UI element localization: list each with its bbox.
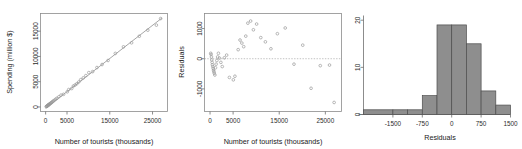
- data-point: [284, 27, 287, 30]
- y-axis-ticks: -100001000: [196, 21, 205, 97]
- y-axis-label: Residuals: [177, 46, 186, 78]
- data-point: [276, 32, 279, 35]
- x-axis-label: Number of tourists (thousands): [224, 137, 323, 146]
- x-tick-label: 15000: [101, 117, 119, 124]
- x-tick-label: 0: [44, 117, 48, 124]
- fit-line: [46, 18, 162, 108]
- y-tick-label: 20: [354, 16, 361, 24]
- y-axis-label: Spending (million $): [5, 30, 14, 94]
- data-point: [217, 52, 220, 55]
- data-point: [221, 65, 224, 68]
- histogram-bar: [481, 91, 496, 115]
- data-point: [155, 24, 158, 27]
- data-point: [247, 22, 250, 25]
- data-point: [220, 61, 223, 64]
- y-tick-label: 15000: [32, 22, 39, 40]
- data-point: [232, 78, 235, 81]
- x-axis-label: Residuals: [424, 133, 456, 142]
- data-point: [87, 71, 90, 74]
- data-point: [244, 35, 247, 38]
- data-point: [270, 47, 273, 50]
- x-tick-label: 5000: [60, 117, 75, 124]
- data-point: [255, 23, 258, 26]
- histogram-bar: [466, 44, 481, 115]
- x-tick-label: 0: [450, 120, 454, 127]
- data-points: [45, 17, 162, 108]
- data-point: [237, 48, 240, 51]
- y-tick-label: 10000: [32, 47, 39, 65]
- data-point: [259, 36, 262, 39]
- data-point: [328, 64, 331, 67]
- y-tick-label: 1000: [196, 21, 203, 36]
- panel-spending-vs-tourists: 050001500025000 050001000015000 Number o…: [0, 0, 174, 149]
- y-axis-ticks: 050001000015000: [32, 22, 41, 109]
- histogram-bar: [422, 96, 437, 115]
- data-point: [301, 44, 304, 47]
- data-point: [241, 42, 244, 45]
- y-tick-label: 5000: [32, 74, 39, 89]
- data-point: [293, 63, 296, 66]
- histogram-bar: [452, 25, 467, 115]
- x-tick-label: 0: [208, 117, 212, 124]
- x-tick-label: 25000: [144, 117, 162, 124]
- data-point: [310, 87, 313, 90]
- x-axis-ticks: 050001500025000: [208, 112, 334, 124]
- x-tick-label: -1500: [385, 120, 402, 127]
- data-point: [264, 40, 267, 43]
- plot-frame: [205, 14, 342, 112]
- data-point: [228, 76, 231, 79]
- x-tick-label: 750: [476, 120, 487, 127]
- panel-residuals-histogram: -1500-75007501500 01020 Residuals: [348, 0, 522, 149]
- y-axis-ticks: 01020: [354, 16, 364, 116]
- data-point: [333, 101, 336, 104]
- data-points: [209, 20, 335, 104]
- y-tick-label: 0: [32, 105, 39, 109]
- histogram-svg: -1500-75007501500 01020 Residuals: [348, 0, 522, 149]
- data-point: [216, 59, 219, 62]
- histogram-bar: [408, 110, 423, 115]
- data-point: [242, 45, 245, 48]
- panel-residuals-vs-tourists: 050001500025000 -100001000 Number of tou…: [174, 0, 348, 149]
- x-axis-label: Number of tourists (thousands): [55, 137, 154, 146]
- histogram-bar: [364, 110, 393, 115]
- data-point: [225, 54, 228, 57]
- histogram-bar: [393, 110, 408, 115]
- y-tick-label: 0: [196, 57, 203, 61]
- x-axis-ticks: 050001500025000: [44, 112, 162, 124]
- y-tick-label: 10: [354, 63, 361, 71]
- y-tick-label: 0: [354, 112, 361, 116]
- x-tick-label: -750: [416, 120, 429, 127]
- three-panel-regression-diagnostics-figure: 050001500025000 050001000015000 Number o…: [0, 0, 522, 149]
- histogram-bar: [496, 105, 511, 114]
- regression-fit-line: [46, 18, 162, 108]
- x-tick-label: 15000: [270, 117, 288, 124]
- x-axis-ticks: -1500-75007501500: [385, 115, 518, 128]
- data-point: [252, 28, 255, 31]
- histogram-bar: [437, 25, 452, 115]
- x-tick-label: 5000: [226, 117, 241, 124]
- data-point: [215, 63, 218, 66]
- data-point: [239, 39, 242, 42]
- data-point: [319, 64, 322, 67]
- residual-plot-svg: 050001500025000 -100001000 Number of tou…: [174, 0, 348, 149]
- data-point: [249, 20, 252, 23]
- y-tick-label: -1000: [196, 80, 203, 97]
- x-tick-label: 25000: [316, 117, 334, 124]
- histogram-bars: [364, 25, 511, 115]
- scatter-plot-svg: 050001500025000 050001000015000 Number o…: [0, 0, 174, 149]
- data-point: [234, 75, 237, 78]
- x-tick-label: 1500: [503, 120, 518, 127]
